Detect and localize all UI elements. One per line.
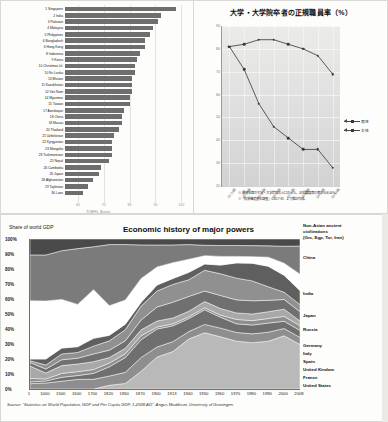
jp-legend-marker-icon xyxy=(344,118,360,125)
toefl-country-label: 8 Indonesia xyxy=(1,51,65,57)
eco-x-tick: 1990 xyxy=(263,391,272,396)
toefl-bar xyxy=(65,83,132,88)
toefl-country-label: 14 Myanmar xyxy=(1,95,65,101)
eco-chart-title: Economic history of major powers xyxy=(81,225,296,234)
eco-legend-label: India xyxy=(303,291,313,297)
jp-data-point xyxy=(228,45,231,48)
eco-legend-label: (Grc, Egp, Tur, Iran) xyxy=(303,235,344,241)
eco-x-tick: 1850 xyxy=(120,391,129,396)
eco-x-axis-labels: 1100015001600170018201850187019001913194… xyxy=(29,391,299,401)
jp-y-tick: 70 xyxy=(216,70,220,74)
toefl-country-label: 29 Tajikistan xyxy=(1,184,65,190)
toefl-country-label: 2 India xyxy=(1,13,65,19)
toefl-bar-chart-panel: 1 Singapore2 India3 Pakistan4 Malaysia5 … xyxy=(0,0,194,214)
eco-x-tick: 1 xyxy=(28,391,30,396)
jp-data-point xyxy=(243,68,246,71)
toefl-bar xyxy=(65,127,119,132)
toefl-bar xyxy=(65,184,88,189)
toefl-country-label: 26 Cambodia xyxy=(1,165,65,171)
jp-legend-label: 男性 xyxy=(361,119,369,124)
toefl-country-label: 10 Sri Lanka xyxy=(1,70,65,76)
toefl-bar-track xyxy=(65,190,195,196)
jp-data-point xyxy=(272,38,275,41)
jp-y-tick: 30 xyxy=(216,161,220,165)
eco-x-tick: 1500 xyxy=(56,391,65,396)
toefl-bar xyxy=(65,76,132,81)
jp-data-point xyxy=(317,148,320,151)
eco-x-tick: 1700 xyxy=(88,391,97,396)
eco-x-tick: 1600 xyxy=(72,391,81,396)
eco-x-tick: 1960 xyxy=(215,391,224,396)
toefl-bar xyxy=(65,146,112,151)
jp-x-tick: 20-24歳 xyxy=(226,187,237,199)
toefl-bar-row: 30 Laos xyxy=(1,190,195,196)
toefl-country-label: 25 Nepal xyxy=(1,158,65,164)
screenshot-page: 1 Singapore2 India3 Pakistan4 Malaysia5 … xyxy=(0,0,388,422)
jp-data-point xyxy=(317,54,320,57)
toefl-bar xyxy=(65,64,135,69)
toefl-country-label: 17 Azerbaijan xyxy=(1,108,65,114)
eco-source-note: Source: "Statistics on World Population,… xyxy=(7,402,234,407)
jp-footnote: ※「就業構造基本調査」（2017年）より推計作成。 xyxy=(238,197,384,203)
toefl-bar xyxy=(65,108,124,113)
jp-data-point xyxy=(331,73,334,76)
eco-x-tick: 2008 xyxy=(294,391,303,396)
toefl-country-label: 26 Japan xyxy=(1,171,65,177)
toefl-country-label: 13 Bhutan xyxy=(1,76,65,82)
eco-x-tick: 1900 xyxy=(151,391,160,396)
toefl-country-label: 22 Kyrgyzstan xyxy=(1,139,65,145)
toefl-country-label: 10 Christmas Isl. xyxy=(1,63,65,69)
toefl-bar xyxy=(65,172,99,177)
jp-legend-item: 男性 xyxy=(344,117,388,126)
jp-data-point xyxy=(302,48,305,51)
eco-legend-label: Germany xyxy=(303,343,322,349)
toefl-x-tick: 100 xyxy=(178,203,184,207)
jp-y-tick: 80 xyxy=(216,47,220,51)
toefl-country-label: 30 Laos xyxy=(1,190,65,196)
jp-y-tick: 40 xyxy=(216,138,220,142)
jp-footnotes: ※ 最終学歴が大学・大学院卒の人口のうち、正規職員等の者が占める%。※「就業構造… xyxy=(238,191,384,202)
toefl-bar xyxy=(65,140,112,145)
toefl-country-label: 3 Pakistan xyxy=(1,19,65,25)
toefl-bar-rows: 1 Singapore2 India3 Pakistan4 Malaysia5 … xyxy=(1,6,195,196)
jp-legend: 男性女性 xyxy=(344,117,388,135)
right-edge-strip xyxy=(382,214,388,422)
toefl-bar xyxy=(65,159,109,164)
jp-y-tick: 60 xyxy=(216,93,220,97)
toefl-country-label: 18 Macao xyxy=(1,120,65,126)
japanese-line-chart-panel: 大学・大学院卒者の正規職員率（%） 9080706050403020 20-24… xyxy=(194,0,388,214)
toefl-bar xyxy=(65,70,135,75)
toefl-bar xyxy=(65,7,176,12)
toefl-country-label: 15 Taiwan xyxy=(1,101,65,107)
toefl-country-label: 6 Hong Kong xyxy=(1,44,65,50)
eco-legend-label: Italy xyxy=(303,351,312,357)
eco-legend-label: Japan xyxy=(303,313,316,319)
toefl-x-tick: 80 xyxy=(128,203,132,207)
jp-data-point xyxy=(272,125,275,128)
jp-chart-title: 大学・大学院卒者の正規職員率（%） xyxy=(194,7,388,17)
toefl-country-label: 23 Turkmenistan xyxy=(1,152,65,158)
eco-legend-label: France xyxy=(303,375,317,381)
jp-y-tick: 20 xyxy=(216,184,220,188)
toefl-bar xyxy=(65,51,140,56)
eco-x-tick: 1970 xyxy=(231,391,240,396)
toefl-bar xyxy=(65,95,130,100)
jp-data-point xyxy=(287,43,290,46)
eco-area-svg xyxy=(30,239,300,389)
jp-y-tick: 50 xyxy=(216,115,220,119)
jp-plot-area: 9080706050403020 xyxy=(221,26,340,187)
toefl-bar xyxy=(65,32,150,37)
eco-y-axis-title: Share of world GDP xyxy=(9,224,53,230)
jp-data-point xyxy=(287,137,290,140)
toefl-country-label: 20 Thailand xyxy=(1,127,65,133)
jp-data-point xyxy=(258,102,261,105)
toefl-bar xyxy=(65,102,130,107)
jp-legend-marker-icon xyxy=(344,127,360,134)
toefl-bar xyxy=(65,26,153,31)
toefl-bar xyxy=(65,153,112,158)
eco-legend-label: United Kindom xyxy=(303,367,334,373)
toefl-country-label: 6 Bangladesh xyxy=(1,38,65,44)
jp-data-point xyxy=(243,43,246,46)
eco-legend-label: United States xyxy=(303,383,331,389)
eco-x-tick: 1820 xyxy=(104,391,113,396)
